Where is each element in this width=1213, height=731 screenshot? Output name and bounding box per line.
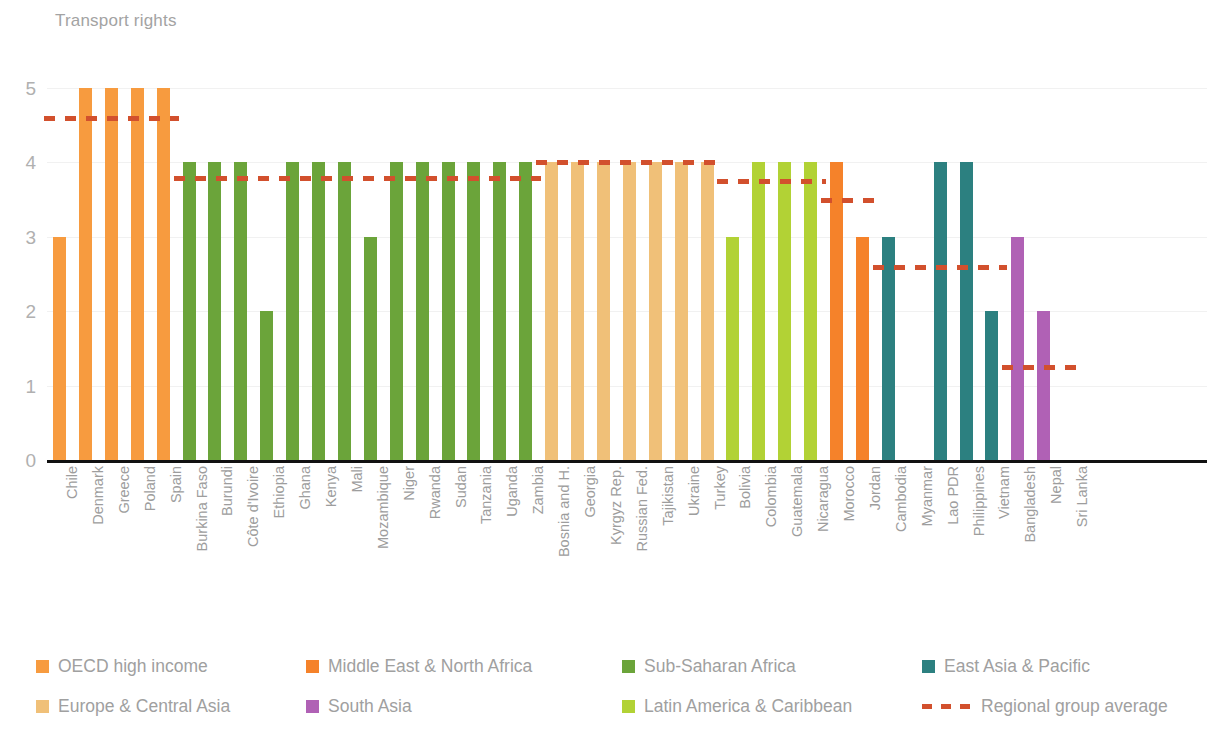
x-axis-label: Morocco [842, 466, 857, 522]
x-axis-label: Burkina Faso [195, 466, 210, 551]
bar[interactable] [675, 162, 688, 460]
bar[interactable] [597, 162, 610, 460]
legend-item[interactable]: South Asia [306, 698, 412, 716]
legend-label: Regional group average [981, 698, 1168, 716]
x-axis-label: Spain [169, 466, 184, 503]
bar[interactable] [105, 88, 118, 460]
legend-dash-icon [922, 704, 970, 709]
bar[interactable] [467, 162, 480, 460]
x-axis-label: Poland [143, 466, 158, 511]
legend-item[interactable]: Latin America & Caribbean [622, 698, 852, 716]
y-tick-label: 1 [25, 376, 36, 395]
x-axis-label: Cambodia [894, 466, 909, 532]
bar[interactable] [545, 162, 558, 460]
legend-swatch-icon [622, 660, 635, 673]
bar[interactable] [752, 162, 765, 460]
legend-swatch-icon [306, 700, 319, 713]
x-axis-label: Ethiopia [272, 466, 287, 518]
bar[interactable] [726, 237, 739, 460]
x-axis-label: Kenya [324, 466, 339, 507]
bar[interactable] [338, 162, 351, 460]
legend-swatch-icon [36, 660, 49, 673]
bar[interactable] [701, 162, 714, 460]
legend-label: South Asia [328, 698, 412, 716]
bar[interactable] [882, 237, 895, 460]
bar[interactable] [312, 162, 325, 460]
legend-item[interactable]: East Asia & Pacific [922, 658, 1090, 676]
y-tick-label: 5 [25, 79, 36, 98]
chart-title: Transport rights [55, 11, 177, 31]
bar[interactable] [571, 162, 584, 460]
x-axis-label: Sudan [454, 466, 469, 508]
legend-label: Sub-Saharan Africa [644, 658, 796, 676]
legend-label: Europe & Central Asia [58, 698, 230, 716]
x-axis-label: Tajikistan [661, 466, 676, 526]
bar[interactable] [519, 162, 532, 460]
bar[interactable] [79, 88, 92, 460]
bar[interactable] [960, 162, 973, 460]
bar[interactable] [1011, 237, 1024, 460]
bar[interactable] [1037, 311, 1050, 460]
bar[interactable] [157, 88, 170, 460]
bar[interactable] [649, 162, 662, 460]
legend-label: Middle East & North Africa [328, 658, 532, 676]
bar[interactable] [804, 162, 817, 460]
x-axis-label: Philippines [972, 466, 987, 536]
y-tick-label: 0 [25, 451, 36, 470]
bar[interactable] [53, 237, 66, 460]
bar[interactable] [183, 162, 196, 460]
x-axis-label: Mozambique [376, 466, 391, 549]
bar[interactable] [778, 162, 791, 460]
x-axis-label: Tanzania [479, 466, 494, 524]
legend-swatch-icon [622, 700, 635, 713]
legend-item[interactable]: Sub-Saharan Africa [622, 658, 796, 676]
x-axis-label: Nepal [1049, 466, 1064, 504]
x-axis-label: Bolivia [738, 466, 753, 509]
bar[interactable] [131, 88, 144, 460]
x-axis-label: Bosnia and H. [557, 466, 572, 557]
y-tick-label: 4 [25, 153, 36, 172]
x-axis-label: Colombia [764, 466, 779, 527]
bar[interactable] [234, 162, 247, 460]
bar[interactable] [493, 162, 506, 460]
bar[interactable] [286, 162, 299, 460]
bar[interactable] [260, 311, 273, 460]
legend-label: East Asia & Pacific [944, 658, 1090, 676]
chart-legend: OECD high incomeEurope & Central AsiaMid… [36, 658, 1213, 724]
x-axis-label: Uganda [505, 466, 520, 517]
x-axis-label: Rwanda [428, 466, 443, 519]
legend-item[interactable]: Europe & Central Asia [36, 698, 230, 716]
legend-swatch-icon [36, 700, 49, 713]
legend-swatch-icon [306, 660, 319, 673]
y-tick-label: 3 [25, 227, 36, 246]
bar[interactable] [934, 162, 947, 460]
legend-swatch-icon [922, 660, 935, 673]
bar[interactable] [364, 237, 377, 460]
bar[interactable] [985, 311, 998, 460]
x-axis-label: Jordan [868, 466, 883, 510]
x-axis-label: Vietnam [997, 466, 1012, 519]
bar[interactable] [208, 162, 221, 460]
x-axis-label: Georgia [583, 466, 598, 518]
x-axis-label: Chile [65, 466, 80, 499]
legend-item[interactable]: Middle East & North Africa [306, 658, 532, 676]
bar[interactable] [442, 162, 455, 460]
x-axis-label: Mali [350, 466, 365, 493]
bar[interactable] [830, 162, 843, 460]
x-axis-label: Lao PDR [946, 466, 961, 525]
x-axis-line [47, 460, 1207, 463]
bars-layer [47, 88, 1207, 460]
x-axis-label: Ukraine [687, 466, 702, 516]
legend-item[interactable]: Regional group average [922, 698, 1168, 716]
x-axis-label: Russian Fed. [635, 466, 650, 551]
bar[interactable] [416, 162, 429, 460]
x-axis-label: Denmark [91, 466, 106, 525]
bar[interactable] [856, 237, 869, 460]
x-axis-labels: ChileDenmarkGreecePolandSpainBurkina Fas… [47, 466, 1207, 626]
legend-item[interactable]: OECD high income [36, 658, 208, 676]
x-axis-label: Myanmar [920, 466, 935, 526]
x-axis-label: Niger [402, 466, 417, 501]
x-axis-label: Zambia [531, 466, 546, 514]
bar[interactable] [390, 162, 403, 460]
bar[interactable] [623, 162, 636, 460]
